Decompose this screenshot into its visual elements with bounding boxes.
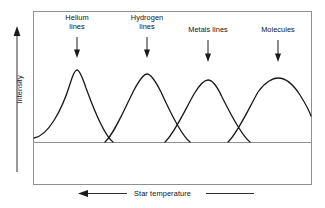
curve-helium-lines bbox=[34, 70, 113, 142]
down-arrow-icon-molecules bbox=[275, 40, 281, 62]
curve-molecules bbox=[228, 78, 311, 142]
annotation-label-molecules: Molecules bbox=[261, 25, 295, 34]
figure-container: Helium lines Hydrogen lines Metals lines… bbox=[0, 0, 325, 208]
down-arrow-icon-helium bbox=[74, 37, 80, 58]
y-axis-label-wrap: Intensity bbox=[5, 78, 29, 96]
down-arrow-icon-metals bbox=[205, 40, 211, 62]
y-axis-label: Intensity bbox=[15, 75, 24, 103]
annotation-label-helium-line1: Helium bbox=[65, 13, 88, 22]
down-arrow-icon-hydrogen bbox=[144, 37, 150, 58]
annotation-label-hydrogen-line1: Hydrogen bbox=[131, 13, 163, 22]
annotation-label-helium: Helium lines bbox=[65, 13, 88, 31]
plot-frame bbox=[34, 12, 312, 185]
annotation-label-hydrogen-line2: lines bbox=[131, 22, 163, 31]
curve-metals-lines bbox=[165, 80, 250, 142]
annotation-label-molecules-line1: Molecules bbox=[261, 25, 295, 34]
curve-hydrogen-lines bbox=[105, 74, 190, 142]
annotation-label-hydrogen: Hydrogen lines bbox=[131, 13, 163, 31]
x-axis-label: Star temperature bbox=[0, 189, 325, 198]
annotation-label-metals-line1: Metals lines bbox=[188, 25, 228, 34]
annotation-label-helium-line2: lines bbox=[65, 22, 88, 31]
annotation-label-metals: Metals lines bbox=[188, 25, 228, 34]
